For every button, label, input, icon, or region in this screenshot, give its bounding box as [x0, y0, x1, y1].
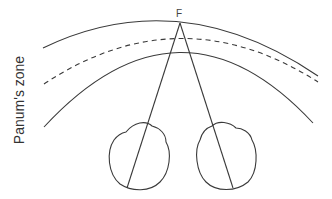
- right-visual-axis: [180, 23, 233, 188]
- fixation-point-label: F: [176, 9, 182, 19]
- inner-limit-arc: [44, 52, 313, 127]
- left-visual-axis: [127, 23, 180, 188]
- outer-limit-arc: [43, 21, 318, 76]
- right-eye-outline: [197, 122, 256, 189]
- panums-zone-diagram: [0, 0, 332, 199]
- panums-zone-axis-label: Panum's zone: [9, 20, 29, 180]
- left-eye-outline: [109, 123, 169, 190]
- horopter-dashed-arc: [44, 38, 318, 84]
